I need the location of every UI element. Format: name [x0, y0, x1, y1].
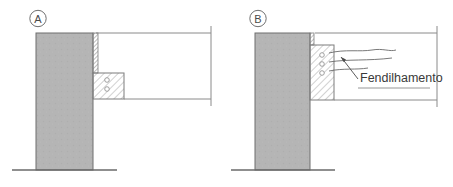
fendilhamento-label: Fendilhamento [360, 71, 443, 85]
panel-a-rebar-dot-1 [105, 78, 110, 83]
panel-a-label-text: A [34, 13, 42, 25]
panel-b-column-body [255, 33, 310, 170]
panel-a-joint-strip [93, 33, 98, 73]
panel-b-rebar-dot-3 [320, 71, 325, 76]
panel-a-bearing-block-body [93, 73, 124, 99]
panel-b-joint-strip [310, 33, 314, 45]
panel-a-joint-hatch [93, 33, 98, 73]
panel-a-bearing-block [93, 73, 124, 99]
panel-a-column [36, 33, 93, 170]
panel-b-column [255, 33, 310, 170]
technical-drawing-figure: A B [0, 0, 453, 187]
panel-b-rebar-dot-1 [320, 53, 325, 58]
panel-b-corbel-block [310, 45, 334, 100]
panel-b-rebar-dot-2 [320, 62, 325, 67]
panel-a-column-body [36, 33, 93, 170]
panel-a-rebar-dot-2 [105, 87, 110, 92]
panel-b-label-text: B [254, 13, 261, 25]
panel-b-joint-hatch [310, 33, 314, 45]
